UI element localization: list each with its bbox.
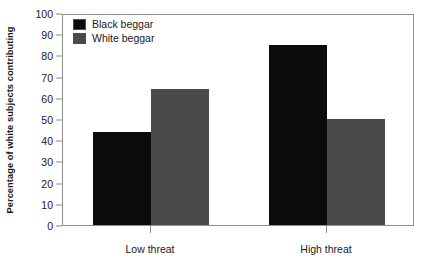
plot-area bbox=[63, 15, 413, 225]
y-axis-title: Percentage of white subjects contributin… bbox=[0, 0, 20, 240]
legend-entry: White beggar bbox=[73, 33, 154, 44]
y-tick-mark bbox=[56, 56, 62, 57]
bar-chart-figure: Percentage of white subjects contributin… bbox=[0, 0, 428, 275]
y-tick-label: 60 bbox=[41, 93, 53, 105]
x-tick-mark bbox=[326, 226, 327, 233]
plot-frame: Black beggarWhite beggar bbox=[62, 14, 414, 226]
y-tick-mark bbox=[56, 204, 62, 205]
y-axis-ticks: 0102030405060708090100 bbox=[20, 14, 56, 226]
y-tick-label: 100 bbox=[35, 8, 53, 20]
legend-label: White beggar bbox=[92, 33, 154, 44]
legend-swatch-icon bbox=[73, 19, 86, 30]
y-tick-mark bbox=[56, 183, 62, 184]
legend-swatch-icon bbox=[73, 33, 86, 44]
bar-black-beggar-high-threat bbox=[269, 45, 327, 225]
x-tick-mark bbox=[150, 226, 151, 233]
y-tick-label: 50 bbox=[41, 114, 53, 126]
y-tick-label: 40 bbox=[41, 135, 53, 147]
y-tick-mark bbox=[56, 98, 62, 99]
y-tick-mark bbox=[56, 14, 62, 15]
y-axis-title-text: Percentage of white subjects contributin… bbox=[5, 27, 15, 214]
y-tick-mark bbox=[56, 141, 62, 142]
legend-label: Black beggar bbox=[92, 19, 153, 30]
y-tick-mark bbox=[56, 77, 62, 78]
y-tick-label: 70 bbox=[41, 72, 53, 84]
legend: Black beggarWhite beggar bbox=[73, 19, 154, 44]
y-tick-mark bbox=[56, 120, 62, 121]
bar-black-beggar-low-threat bbox=[93, 132, 151, 225]
x-tick-label: Low threat bbox=[125, 243, 174, 255]
y-tick-label: 30 bbox=[41, 156, 53, 168]
bar-white-beggar-low-threat bbox=[151, 89, 209, 225]
x-tick-label: High threat bbox=[300, 243, 351, 255]
y-tick-label: 20 bbox=[41, 178, 53, 190]
y-tick-mark bbox=[56, 162, 62, 163]
y-tick-mark bbox=[56, 35, 62, 36]
y-tick-label: 10 bbox=[41, 199, 53, 211]
legend-entry: Black beggar bbox=[73, 19, 154, 30]
bar-white-beggar-high-threat bbox=[327, 119, 385, 225]
y-tick-mark bbox=[56, 226, 62, 227]
y-tick-label: 0 bbox=[47, 220, 53, 232]
y-tick-label: 90 bbox=[41, 29, 53, 41]
y-tick-label: 80 bbox=[41, 50, 53, 62]
